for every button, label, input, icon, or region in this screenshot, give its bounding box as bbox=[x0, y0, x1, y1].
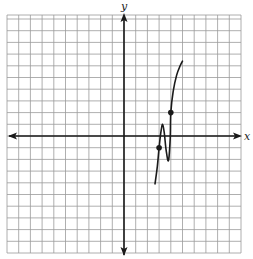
marked-point bbox=[168, 110, 174, 116]
y-axis-label: y bbox=[120, 0, 128, 13]
x-axis-label: x bbox=[244, 130, 251, 143]
axes bbox=[8, 13, 242, 256]
function-graph: x y bbox=[0, 0, 253, 259]
marked-point bbox=[156, 145, 162, 151]
